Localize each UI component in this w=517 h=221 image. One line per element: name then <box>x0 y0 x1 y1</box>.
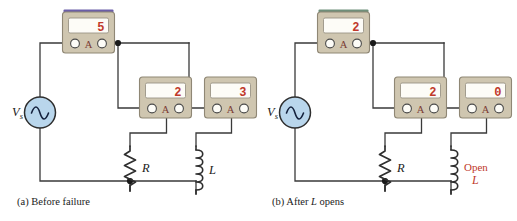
source-label: Vs <box>12 105 24 121</box>
inductor-a <box>196 146 203 194</box>
panel-b-caption-italic: L <box>311 196 317 207</box>
meter-reading: 0 <box>494 86 501 100</box>
source-label-sub: s <box>20 111 24 121</box>
meter-unit-label: A <box>417 104 425 115</box>
meter-unit-label: A <box>340 39 348 50</box>
panel-a: Vs 5 A 2 A 3 A R L <box>12 10 257 195</box>
meter-reading: 2 <box>429 86 436 100</box>
source-label-sub: s <box>275 111 279 121</box>
panel-b-caption-text: After L opens <box>286 196 344 207</box>
wire-node-to-meter2 <box>118 43 140 108</box>
meter-resistor-branch-a[interactable]: 2 A <box>140 77 192 118</box>
ac-source <box>280 97 311 128</box>
inductor-label: L <box>208 163 216 177</box>
circuit-figure: Vs 5 A 2 A 3 A R L <box>0 0 517 221</box>
panel-b-caption-prefix: (b) <box>272 196 284 207</box>
meter-unit-label: A <box>85 39 93 50</box>
resistor-label: R <box>396 161 405 175</box>
meter-unit-label: A <box>227 104 235 115</box>
meter-unit-label: A <box>162 104 170 115</box>
meter-reading: 2 <box>174 86 181 100</box>
meter-total-current-a[interactable]: 5 A <box>63 10 115 54</box>
wire-source-to-meter1 <box>295 43 318 97</box>
meter-total-current-b[interactable]: 2 A <box>318 10 370 54</box>
junction-node-top <box>370 40 376 46</box>
meter-inductor-branch-a[interactable]: 3 A <box>205 77 257 118</box>
panel-b: Vs 2 A 2 A 0 A R Open L <box>267 10 512 195</box>
panel-a-caption: (a) Before failure <box>17 196 90 207</box>
wire-node-to-meter2 <box>373 43 395 108</box>
panel-a-caption-prefix: (a) <box>17 196 29 207</box>
source-label: Vs <box>267 105 279 121</box>
open-fault-label-line1: Open <box>464 161 488 173</box>
open-fault-label-line2: L <box>471 173 479 187</box>
panel-a-caption-text: Before failure <box>31 196 90 207</box>
meter-reading: 5 <box>97 21 104 35</box>
inductor-b <box>451 146 458 194</box>
wire-source-to-meter1 <box>40 43 63 97</box>
resistor-label: R <box>141 161 150 175</box>
meter-inductor-branch-b[interactable]: 0 A <box>460 77 512 118</box>
ac-source <box>25 97 56 128</box>
junction-node-top <box>115 40 121 46</box>
wire-bottom-rail <box>40 128 196 181</box>
meter-reading: 3 <box>239 86 246 100</box>
meter-unit-label: A <box>482 104 490 115</box>
wire-bottom-rail <box>295 128 451 181</box>
meter-resistor-branch-b[interactable]: 2 A <box>395 77 447 118</box>
meter-reading: 2 <box>352 21 359 35</box>
panel-b-caption: (b) After L opens <box>272 196 344 207</box>
